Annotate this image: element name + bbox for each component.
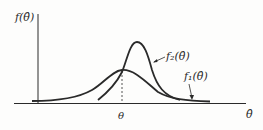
theta-label: θ	[118, 111, 124, 121]
probability-density-diagram: f(θ̂) f₂(θ̂) f₁(θ̂) θ θ̂	[0, 0, 263, 130]
f2-arrowhead-icon	[153, 59, 158, 63]
f2-label: f₂(θ̂)	[166, 51, 190, 62]
diagram-canvas	[0, 0, 263, 130]
y-axis-label: f(θ̂)	[15, 12, 34, 23]
x-axis-label: θ̂	[246, 109, 253, 120]
f1-label: f₁(θ̂)	[184, 71, 208, 82]
f1-arrowhead-icon	[190, 95, 195, 100]
